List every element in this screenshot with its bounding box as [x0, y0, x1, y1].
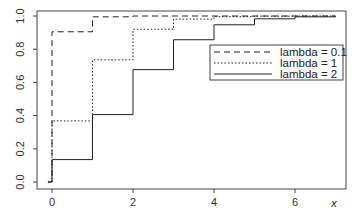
x-tick-label: 4	[211, 196, 217, 208]
legend-label: lambda = 2	[280, 68, 337, 80]
y-tick-label: 0.2	[14, 141, 26, 156]
y-tick-label: 0.6	[14, 75, 26, 90]
poisson-cdf-chart: 0246x0.00.20.40.60.81.0 lambda = 0.1lamb…	[0, 0, 363, 216]
legend: lambda = 0.1lambda = 1lambda = 2	[210, 45, 347, 80]
series-line-lambda-0-1	[48, 16, 336, 182]
plot-frame	[37, 11, 346, 189]
x-tick-label: 2	[130, 196, 136, 208]
x-axis-label: x	[330, 197, 337, 209]
y-tick-label: 0.8	[14, 42, 26, 57]
x-tick-label: 0	[49, 196, 55, 208]
y-tick-label: 0.0	[14, 174, 26, 189]
series-line-lambda-1	[48, 16, 336, 182]
series-group	[48, 16, 336, 182]
series-line-lambda-2	[48, 16, 336, 182]
x-tick-label: 6	[292, 196, 298, 208]
y-tick-label: 0.4	[14, 108, 26, 123]
axes: 0246x0.00.20.40.60.81.0	[14, 8, 346, 209]
y-tick-label: 1.0	[14, 8, 26, 23]
